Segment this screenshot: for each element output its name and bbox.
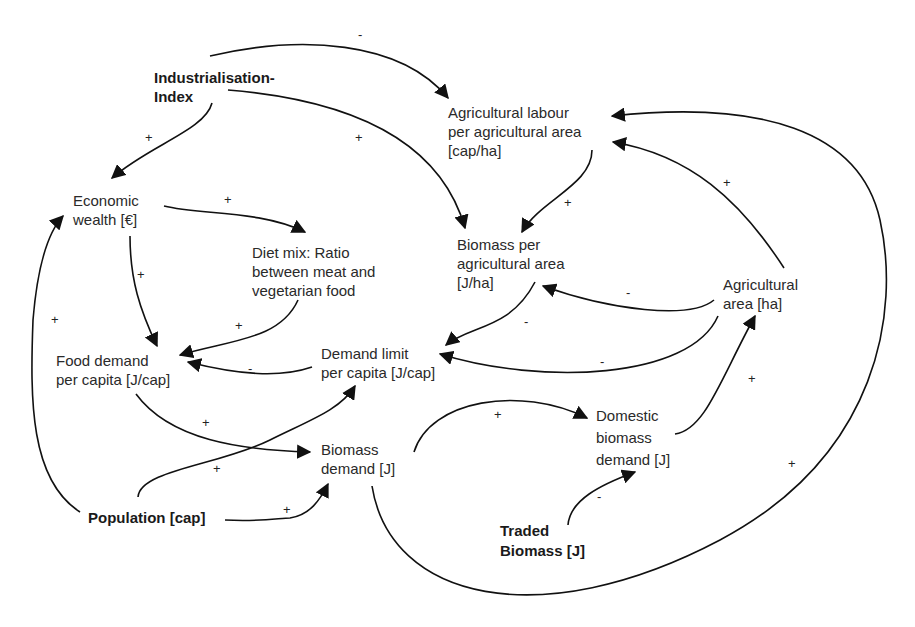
node-label-line: Biomass [J]	[500, 541, 585, 561]
node-biomass-per-agricultural-area: Biomass per agricultural area [J/ha]	[457, 235, 565, 292]
link-agri-area-to-demand-limit	[440, 316, 718, 372]
sign-economic-wealth-food-demand: +	[137, 268, 145, 281]
node-population: Population [cap]	[88, 508, 206, 527]
sign-domestic-biomass-agri-area: +	[748, 372, 756, 385]
node-label-line: Agricultural labour	[448, 103, 581, 122]
sign-traded-biomass-domestic-biomass: -	[597, 490, 601, 503]
node-label-line: per capita [J/cap]	[56, 370, 170, 389]
link-biomass-demand-to-agri-labour	[372, 112, 886, 595]
sign-biomass-demand-agri-labour: +	[788, 457, 796, 470]
node-label-line: Biomass	[321, 440, 395, 459]
sign-agri-area-biomass-per-area: -	[626, 286, 630, 299]
node-label-line: Demand limit	[321, 344, 435, 363]
sign-biomass-demand-domestic-biomass: +	[494, 408, 502, 421]
sign-agri-area-demand-limit: -	[600, 355, 604, 368]
link-agri-labour-to-biomass-per-area	[522, 150, 592, 232]
node-label-line: Index	[154, 87, 275, 106]
node-label-line: Diet mix: Ratio	[252, 243, 375, 262]
node-label-line: vegetarian food	[252, 281, 375, 300]
link-economic-wealth-to-food-demand	[130, 236, 157, 346]
sign-food-demand-biomass-demand: +	[202, 416, 210, 429]
link-industrialisation-to-economic-wealth	[112, 103, 212, 178]
node-label-line: Industrialisation-	[154, 68, 275, 87]
sign-population-economic-wealth: +	[51, 313, 59, 326]
sign-industrialisation-economic-wealth: +	[145, 131, 153, 144]
node-domestic-biomass-demand: Domestic biomass demand [J]	[596, 405, 670, 471]
node-label-line: [cap/ha]	[448, 141, 581, 160]
node-food-demand-per-capita: Food demand per capita [J/cap]	[56, 351, 170, 389]
node-label-line: area [ha]	[723, 294, 798, 313]
node-label-line: biomass	[596, 427, 670, 449]
sign-agri-area-agri-labour: +	[723, 176, 731, 189]
link-traded-biomass-to-domestic-biomass	[568, 472, 635, 525]
node-label-line: Agricultural	[723, 275, 798, 294]
node-agricultural-labour: Agricultural labour per agricultural are…	[448, 103, 581, 160]
node-label-line: Traded	[500, 521, 585, 541]
node-agricultural-area: Agricultural area [ha]	[723, 275, 798, 313]
node-biomass-demand: Biomass demand [J]	[321, 440, 395, 478]
node-label-line: [J/ha]	[457, 273, 565, 292]
sign-population-biomass-demand: +	[283, 503, 291, 516]
node-label-line: wealth [€]	[73, 210, 139, 229]
sign-biomass-per-area-demand-limit: -	[524, 315, 528, 328]
sign-population-demand-limit: +	[213, 462, 221, 475]
causal-links	[0, 0, 915, 627]
node-industrialisation-index: Industrialisation- Index	[154, 68, 275, 106]
node-traded-biomass: Traded Biomass [J]	[500, 521, 585, 561]
link-industrialisation-to-biomass-per-area	[228, 90, 465, 228]
node-label-line: Food demand	[56, 351, 170, 370]
sign-diet-mix-food-demand: +	[235, 319, 243, 332]
node-economic-wealth: Economic wealth [€]	[73, 191, 139, 229]
node-demand-limit-per-capita: Demand limit per capita [J/cap]	[321, 344, 435, 382]
node-diet-mix: Diet mix: Ratio between meat and vegetar…	[252, 243, 375, 300]
link-domestic-biomass-to-agri-area	[675, 316, 755, 434]
sign-demand-limit-food-demand: -	[248, 362, 252, 375]
node-label-line: between meat and	[252, 262, 375, 281]
node-label-line: demand [J]	[321, 459, 395, 478]
sign-economic-wealth-diet-mix: +	[224, 193, 232, 206]
node-label-line: demand [J]	[596, 449, 670, 471]
sign-industrialisation-agri-labour: -	[358, 28, 362, 41]
sign-industrialisation-biomass-per-area: +	[355, 131, 363, 144]
link-population-to-biomass-demand	[225, 484, 328, 521]
link-food-demand-to-biomass-demand	[136, 394, 310, 452]
link-agri-area-to-agri-labour	[613, 142, 784, 268]
node-label-line: agricultural area	[457, 254, 565, 273]
node-label-line: Economic	[73, 191, 139, 210]
node-label-line: Biomass per	[457, 235, 565, 254]
node-label-line: per agricultural area	[448, 122, 581, 141]
node-label-line: Domestic	[596, 405, 670, 427]
sign-agri-labour-biomass-per-area: +	[564, 196, 572, 209]
node-label-line: Population [cap]	[88, 508, 206, 527]
node-label-line: per capita [J/cap]	[321, 363, 435, 382]
link-economic-wealth-to-diet-mix	[164, 206, 305, 232]
